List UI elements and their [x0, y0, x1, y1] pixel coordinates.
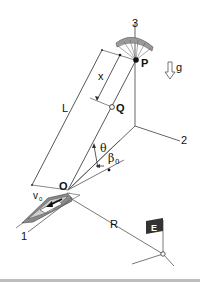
- beta-subscript: 0: [115, 158, 119, 166]
- point-Q: [110, 105, 115, 110]
- length-L-dimension: [32, 50, 102, 185]
- motorboat-icon: [16, 193, 72, 228]
- down-arrow-icon: [165, 62, 175, 79]
- axis-2-line: [135, 126, 180, 141]
- x-extension: [90, 98, 112, 107]
- flag-E-label: E: [151, 223, 157, 233]
- ground-line-left: [132, 254, 163, 264]
- point-P-label: P: [141, 57, 148, 69]
- velocity-subscript: 0: [39, 196, 43, 202]
- axis-1-label: 1: [21, 230, 27, 242]
- radius-R-label: R: [110, 218, 118, 230]
- beta-label: β: [108, 152, 114, 165]
- x-tick-top: [119, 54, 122, 57]
- length-L-label: L: [62, 102, 68, 114]
- axis-2-label: 2: [181, 134, 187, 146]
- point-P: [133, 57, 139, 63]
- theta-label: θ: [100, 142, 107, 155]
- parasail-diagram: 3 2 θ β 0 L x Q P g: [0, 0, 200, 282]
- point-O-label: O: [59, 180, 68, 192]
- L-tick-bottom: [31, 184, 33, 186]
- distance-x-label: x: [98, 70, 104, 82]
- point-Q-label: Q: [116, 102, 125, 114]
- beta-point: [108, 169, 111, 172]
- gravity-label: g: [176, 61, 182, 73]
- point-E-marker: [161, 252, 165, 256]
- L-tick-top: [101, 49, 103, 51]
- velocity-label: v: [33, 190, 38, 201]
- axis-3-label: 3: [132, 17, 138, 29]
